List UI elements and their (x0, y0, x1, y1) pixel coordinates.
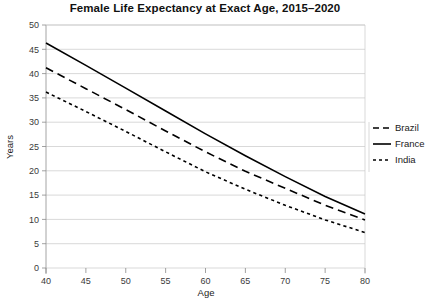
y-tick-label: 45 (29, 45, 39, 55)
y-tick-label: 40 (29, 69, 39, 79)
chart-container: Female Life Expectancy at Exact Age, 201… (0, 0, 439, 306)
y-tick-label: 15 (29, 190, 39, 200)
data-series (46, 43, 365, 233)
y-tick-label: 20 (29, 166, 39, 176)
y-tick-label: 5 (34, 239, 39, 249)
line-chart-plot: 05101520253035404550 404550556065707580 … (0, 0, 439, 306)
x-tick-label: 70 (280, 276, 290, 286)
y-tick-label: 50 (29, 20, 39, 30)
y-axis-ticks: 05101520253035404550 (29, 20, 46, 273)
x-tick-label: 45 (81, 276, 91, 286)
legend-label-brazil: Brazil (395, 122, 419, 133)
y-tick-label: 35 (29, 93, 39, 103)
x-tick-label: 80 (360, 276, 370, 286)
legend-label-india: India (395, 154, 416, 165)
plot-frame (46, 25, 365, 274)
series-line-france (46, 43, 365, 214)
y-tick-label: 30 (29, 117, 39, 127)
series-line-brazil (46, 68, 365, 220)
y-tick-label: 25 (29, 142, 39, 152)
x-axis-ticks: 404550556065707580 (41, 268, 370, 286)
x-tick-label: 50 (121, 276, 131, 286)
x-tick-label: 60 (200, 276, 210, 286)
x-tick-label: 40 (41, 276, 51, 286)
y-tick-label: 10 (29, 215, 39, 225)
legend-label-france: France (395, 138, 425, 149)
y-tick-label: 0 (34, 263, 39, 273)
gridlines (46, 25, 365, 268)
chart-legend: BrazilFranceIndia (369, 122, 425, 172)
y-axis-title: Years (4, 135, 15, 159)
series-line-india (46, 92, 365, 232)
x-tick-label: 65 (240, 276, 250, 286)
x-tick-label: 75 (320, 276, 330, 286)
x-axis-title: Age (198, 287, 215, 298)
x-tick-label: 55 (161, 276, 171, 286)
